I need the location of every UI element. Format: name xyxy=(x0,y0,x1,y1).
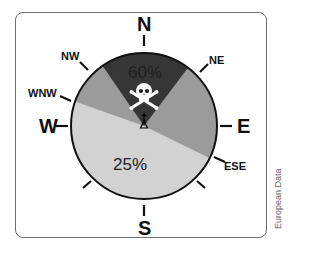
compass-label-e: E xyxy=(237,116,250,136)
compass-label-n: N xyxy=(137,14,151,34)
compass-label-nw: NW xyxy=(61,51,79,62)
source-credit: European Data xyxy=(273,168,283,229)
compass-label-s: S xyxy=(138,218,151,238)
compass-label-wnw: WNW xyxy=(28,88,57,99)
segment-label-60: 60% xyxy=(128,64,162,81)
compass-label-ne: NE xyxy=(209,55,224,66)
compass-label-ese: ESE xyxy=(224,161,246,172)
compass-label-w: W xyxy=(39,116,58,136)
segment-label-25: 25% xyxy=(113,156,147,173)
